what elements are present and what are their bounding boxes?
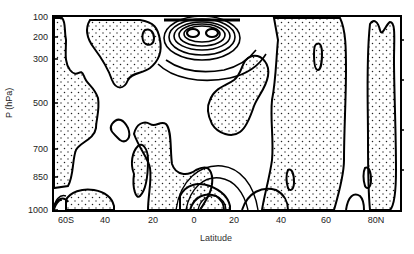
stippled-regions xyxy=(54,18,396,210)
stipple-tropics-north xyxy=(208,56,268,135)
y-tick-label: 850 xyxy=(14,172,48,182)
jet-core-contours xyxy=(158,16,266,80)
x-tick-label: 20 xyxy=(138,215,168,225)
x-tick-label: 40 xyxy=(266,215,296,225)
stipple-northern-midlat xyxy=(262,18,346,210)
x-tick-label: 40 xyxy=(90,215,120,225)
stipple-surface-south xyxy=(66,189,114,210)
y-tick-label: 700 xyxy=(14,144,48,154)
x-tick-label: 60 xyxy=(311,215,341,225)
contour-polar-surface-arc xyxy=(346,195,364,210)
y-tick-label: 100 xyxy=(14,12,48,22)
contour-south-mid-isolated xyxy=(111,120,130,142)
x-axis-label: Latitude xyxy=(200,233,232,243)
y-tick-label: 300 xyxy=(14,54,48,64)
x-tick-label: 60S xyxy=(51,215,81,225)
y-tick-label: 200 xyxy=(14,32,48,42)
y-tick-label: 1000 xyxy=(14,205,48,215)
x-tick-label: 20 xyxy=(219,215,249,225)
y-axis-label: P (hPa) xyxy=(4,88,14,118)
x-tick-label: 0 xyxy=(179,215,209,225)
y-tick-label: 500 xyxy=(14,98,48,108)
x-tick-label: 80N xyxy=(361,215,391,225)
